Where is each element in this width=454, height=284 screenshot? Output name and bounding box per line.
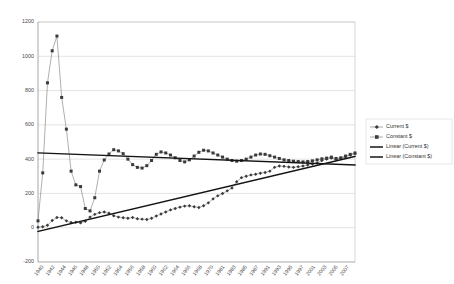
- data-point-marker: [197, 151, 200, 154]
- data-point-marker: [221, 156, 224, 159]
- y-axis-tick-label: 0: [31, 224, 34, 230]
- data-point-marker: [93, 196, 96, 199]
- x-axis-tick-label: 1956: [123, 264, 135, 277]
- x-axis-tick-label: 1970: [202, 264, 214, 277]
- y-axis-tick-label: -200: [23, 258, 34, 264]
- data-point-marker: [169, 154, 172, 157]
- legend-label: Constant $: [386, 133, 412, 139]
- legend-swatch-marker: [375, 135, 379, 139]
- data-point-marker: [335, 157, 338, 160]
- data-point-marker: [202, 149, 205, 152]
- chart-plot: -200020040060080010001200194019421944194…: [0, 0, 454, 284]
- data-point-marker: [60, 96, 63, 99]
- x-axis-tick-label: 2001: [304, 264, 316, 277]
- data-point-marker: [183, 204, 186, 207]
- x-axis-tick-label: 1991: [259, 264, 271, 277]
- data-point-marker: [84, 207, 87, 210]
- x-axis-tick-label: 1995: [282, 264, 294, 277]
- data-point-marker: [169, 208, 172, 211]
- data-point-marker: [89, 209, 92, 212]
- data-point-marker: [264, 153, 267, 156]
- x-axis-tick-label: 1954: [112, 264, 124, 277]
- y-axis-tick-label: 600: [25, 121, 34, 127]
- data-point-marker: [136, 166, 139, 169]
- x-axis-tick-label: 1944: [55, 264, 67, 277]
- data-point-marker: [55, 35, 58, 38]
- x-axis-tick-label: 1985: [236, 264, 248, 277]
- x-axis-tick-label: 1958: [135, 264, 147, 277]
- x-axis-tick-label: 1993: [270, 264, 282, 277]
- data-point-marker: [141, 167, 144, 170]
- data-point-marker: [145, 218, 148, 221]
- x-axis-tick-label: 1948: [78, 264, 90, 277]
- y-axis-tick-label: 1000: [22, 53, 34, 59]
- data-point-marker: [278, 164, 281, 167]
- data-point-marker: [259, 153, 262, 156]
- data-point-marker: [325, 157, 328, 160]
- data-point-marker: [36, 226, 39, 229]
- data-point-marker: [244, 175, 247, 178]
- y-axis-tick-label: 800: [25, 87, 34, 93]
- data-point-marker: [254, 154, 257, 157]
- data-point-marker: [354, 151, 357, 154]
- data-point-marker: [330, 156, 333, 159]
- data-point-marker: [202, 204, 205, 207]
- data-point-marker: [55, 216, 58, 219]
- data-point-marker: [79, 185, 82, 188]
- data-point-marker: [145, 164, 148, 167]
- data-point-marker: [117, 215, 120, 218]
- x-axis-tick-label: 1960: [146, 264, 158, 277]
- data-point-marker: [112, 148, 115, 151]
- data-point-marker: [174, 207, 177, 210]
- data-point-marker: [287, 165, 290, 168]
- chart-container: -200020040060080010001200194019421944194…: [0, 0, 454, 284]
- data-point-marker: [150, 217, 153, 220]
- x-axis-tick-label: 2003: [316, 264, 328, 277]
- data-point-marker: [282, 165, 285, 168]
- data-point-marker: [192, 205, 195, 208]
- data-point-marker: [46, 81, 49, 84]
- data-point-marker: [98, 211, 101, 214]
- data-point-marker: [212, 151, 215, 154]
- data-point-marker: [41, 171, 44, 174]
- data-point-marker: [98, 170, 101, 173]
- data-point-marker: [164, 210, 167, 213]
- data-point-marker: [216, 194, 219, 197]
- data-point-marker: [70, 170, 73, 173]
- data-point-marker: [131, 216, 134, 219]
- x-axis-tick-label: 1983: [225, 264, 237, 277]
- data-point-marker: [216, 154, 219, 157]
- x-axis-tick-label: 1940: [33, 264, 45, 277]
- x-axis-tick-label: 1950: [89, 264, 101, 277]
- data-point-marker: [51, 49, 54, 52]
- data-point-marker: [74, 183, 77, 186]
- x-axis-tick-label: 1968: [191, 264, 203, 277]
- x-axis-tick-label: 1946: [67, 264, 79, 277]
- data-point-marker: [65, 128, 68, 131]
- legend-label: Linear (Constant $): [386, 153, 432, 159]
- data-point-marker: [155, 153, 158, 156]
- x-axis-tick-label: 2005: [327, 264, 339, 277]
- data-point-marker: [292, 166, 295, 169]
- data-point-marker: [37, 219, 40, 222]
- data-point-marker: [254, 173, 257, 176]
- data-point-marker: [283, 158, 286, 161]
- data-point-marker: [320, 157, 323, 160]
- data-point-marker: [178, 205, 181, 208]
- data-point-marker: [159, 212, 162, 215]
- x-axis-tick-label: 1962: [157, 264, 169, 277]
- data-point-marker: [117, 149, 120, 152]
- data-point-marker: [103, 210, 106, 213]
- data-point-marker: [344, 155, 347, 158]
- y-axis-tick-label: 200: [25, 190, 34, 196]
- x-axis-tick-label: 1997: [293, 264, 305, 277]
- data-point-marker: [259, 172, 262, 175]
- data-point-marker: [136, 217, 139, 220]
- data-point-marker: [301, 164, 304, 167]
- data-point-marker: [249, 173, 252, 176]
- data-point-marker: [297, 165, 300, 168]
- legend-label: Linear (Current $): [386, 143, 429, 149]
- data-point-marker: [140, 217, 143, 220]
- data-point-marker: [126, 158, 129, 161]
- data-point-marker: [160, 150, 163, 153]
